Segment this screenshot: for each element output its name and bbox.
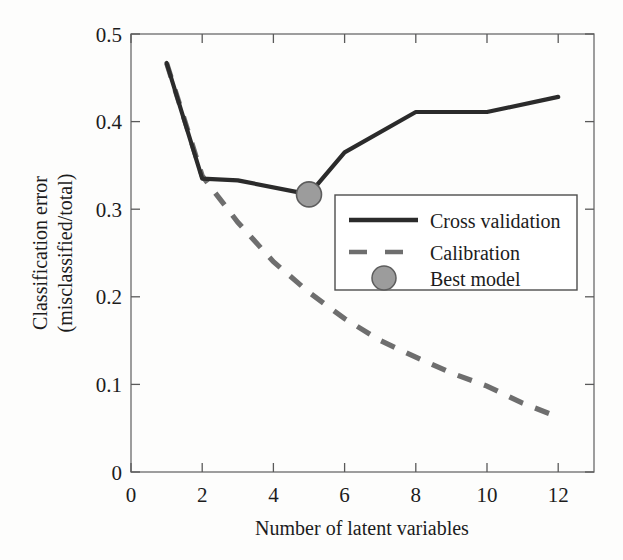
legend-swatch-circle-marker	[372, 266, 396, 290]
y-tick-label-0.2: 0.2	[96, 285, 122, 309]
y-tick-label-0.1: 0.1	[96, 373, 122, 397]
x-tick-label-10: 10	[477, 483, 498, 507]
legend-label-cross-validation: Cross validation	[430, 210, 561, 232]
chart-figure: 0.5 0.4 0.3 0.2 0.1 0 0 2 4 6 8 10 12 Nu…	[0, 0, 623, 560]
x-tick-label-4: 4	[268, 483, 279, 507]
legend-label-best-model: Best model	[430, 268, 521, 290]
y-axis-title-line1: Classification error	[29, 176, 51, 330]
legend-label-calibration: Calibration	[430, 242, 520, 264]
series-cross-validation-line	[167, 63, 559, 194]
chart-legend: Cross validation Calibration Best model	[335, 195, 577, 290]
x-tick-label-6: 6	[339, 483, 350, 507]
x-tick-label-8: 8	[411, 483, 422, 507]
y-tick-label-0.4: 0.4	[96, 110, 123, 134]
y-axis-title-line2: (misclassified/total)	[54, 174, 77, 333]
x-tick-label-0: 0	[126, 483, 137, 507]
best-model-marker	[297, 182, 322, 207]
classification-error-plot: 0.5 0.4 0.3 0.2 0.1 0 0 2 4 6 8 10 12 Nu…	[0, 0, 623, 560]
x-axis-title: Number of latent variables	[255, 517, 469, 539]
x-tick-label-12: 12	[548, 483, 569, 507]
x-tick-label-2: 2	[197, 483, 208, 507]
y-tick-label-0: 0	[112, 461, 123, 485]
y-tick-label-0.5: 0.5	[96, 23, 122, 47]
y-tick-label-0.3: 0.3	[96, 198, 122, 222]
